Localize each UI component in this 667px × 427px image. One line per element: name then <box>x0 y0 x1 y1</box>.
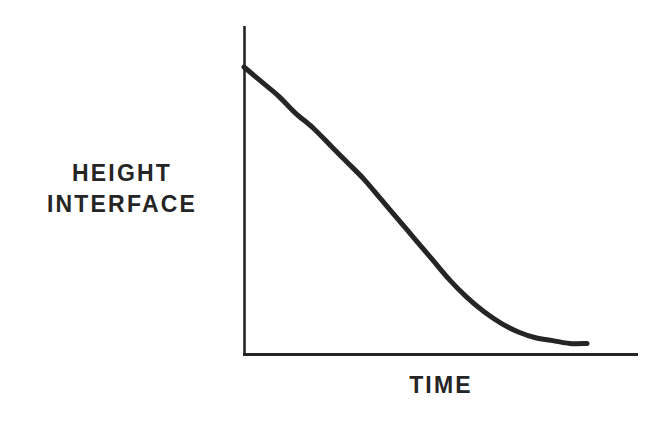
y-axis-label-line-1: HEIGHT <box>0 158 244 189</box>
x-axis-label: TIME <box>244 372 638 398</box>
y-axis-label: HEIGHT INTERFACE <box>0 158 244 220</box>
decay-curve <box>244 67 587 344</box>
figure-canvas: HEIGHT INTERFACE TIME <box>0 0 667 427</box>
y-axis-label-line-2: INTERFACE <box>0 189 244 220</box>
